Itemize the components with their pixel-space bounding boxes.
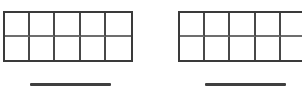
ten-frame-1-cell-10[interactable] — [106, 37, 131, 61]
ten-frame-2 — [178, 11, 302, 62]
ten-frame-2-cell-7[interactable] — [205, 37, 230, 61]
ten-frame-2-cell-6[interactable] — [180, 37, 205, 61]
ten-frame-1-cell-7[interactable] — [30, 37, 55, 61]
worksheet-canvas — [0, 0, 302, 92]
ten-frame-1-cell-4[interactable] — [81, 13, 106, 37]
answer-line-2[interactable] — [205, 83, 286, 86]
ten-frame-1-cell-5[interactable] — [106, 13, 131, 37]
ten-frame-2-cell-8[interactable] — [230, 37, 255, 61]
ten-frame-2-cell-2[interactable] — [205, 13, 230, 37]
ten-frame-2-cell-3[interactable] — [230, 13, 255, 37]
ten-frame-1-cell-9[interactable] — [81, 37, 106, 61]
ten-frame-2-cell-10[interactable] — [281, 37, 302, 61]
answer-line-1[interactable] — [30, 83, 111, 86]
ten-frame-2-cell-5[interactable] — [281, 13, 302, 37]
ten-frame-1-cell-2[interactable] — [30, 13, 55, 37]
ten-frame-2-cell-1[interactable] — [180, 13, 205, 37]
ten-frame-1-cell-1[interactable] — [5, 13, 30, 37]
ten-frame-1 — [3, 11, 133, 62]
ten-frame-1-cell-3[interactable] — [55, 13, 80, 37]
ten-frame-1-cell-8[interactable] — [55, 37, 80, 61]
ten-frame-2-cell-9[interactable] — [256, 37, 281, 61]
ten-frame-2-cell-4[interactable] — [256, 13, 281, 37]
ten-frame-1-cell-6[interactable] — [5, 37, 30, 61]
